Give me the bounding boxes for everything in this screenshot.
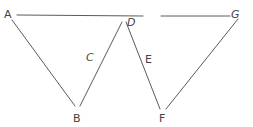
point-label-a: A xyxy=(4,8,12,21)
segment-f-g xyxy=(166,19,238,109)
geometry-diagram: A D G C E B F xyxy=(0,0,253,127)
point-label-d: D xyxy=(127,16,135,29)
point-label-f: F xyxy=(159,112,165,125)
segment-d-f xyxy=(126,22,160,109)
point-label-b: B xyxy=(73,112,81,125)
point-label-e: E xyxy=(145,53,152,66)
point-label-c: C xyxy=(86,51,94,64)
segment-b-d xyxy=(80,22,122,106)
segment-a-d-top xyxy=(17,15,143,16)
segment-a-b xyxy=(12,20,75,106)
point-label-g: G xyxy=(231,8,240,21)
